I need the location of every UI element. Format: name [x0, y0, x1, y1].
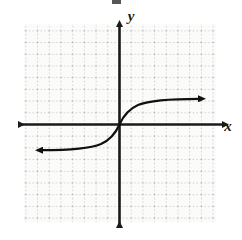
y-axis-label: y	[126, 8, 135, 24]
x-axis-label: x	[223, 118, 232, 134]
graph-screenshot: x y	[0, 0, 242, 240]
coordinate-plane-graph: x y	[0, 0, 242, 240]
